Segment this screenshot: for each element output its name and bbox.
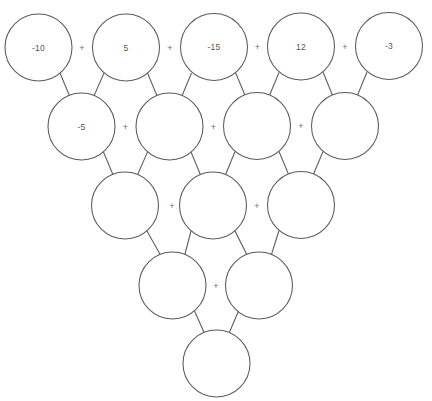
pyramid-canvas: -105-1512-3-5 ++++++++++ xyxy=(0,0,432,401)
connector-line xyxy=(323,72,333,97)
connector-line xyxy=(147,231,161,256)
connector-line xyxy=(60,73,70,97)
connector-line xyxy=(269,73,279,97)
connector-line xyxy=(271,231,279,257)
cell-value-r0c2: -15 xyxy=(207,42,220,52)
plus-operator-r0o2: + xyxy=(255,42,260,52)
plus-operator-r0o0: + xyxy=(79,43,84,53)
connector-line xyxy=(357,72,367,97)
plus-operator-r0o1: + xyxy=(167,43,172,53)
connector-line xyxy=(235,231,248,256)
pyramid-circles-group: -105-1512-3-5 xyxy=(5,13,423,398)
pyramid-cell-r1c3[interactable] xyxy=(312,93,379,160)
plus-operator-r2o0: + xyxy=(169,201,174,211)
plus-operator-r1o0: + xyxy=(123,122,128,132)
connector-line xyxy=(191,152,201,176)
pyramid-cell-r1c2[interactable] xyxy=(224,93,291,160)
pyramid-cell-r3c1[interactable] xyxy=(226,252,293,319)
cell-value-r0c3: 12 xyxy=(296,42,306,52)
plus-operator-r2o1: + xyxy=(254,201,259,211)
pyramid-cell-r2c1[interactable] xyxy=(180,172,247,239)
plus-operator-r0o3: + xyxy=(342,42,347,52)
connector-line xyxy=(104,152,114,176)
plus-operator-r1o2: + xyxy=(298,121,303,131)
addition-pyramid-puzzle: -105-1512-3-5 ++++++++++ xyxy=(0,0,432,401)
connector-line xyxy=(182,73,192,97)
cell-value-r0c4: -3 xyxy=(385,41,393,51)
connector-line xyxy=(236,73,246,97)
connector-line xyxy=(225,152,235,177)
pyramid-cell-r1c1[interactable] xyxy=(136,93,203,160)
connector-line xyxy=(195,311,206,335)
pyramid-cell-r4c0[interactable] xyxy=(183,330,250,397)
connector-line xyxy=(185,231,192,256)
cell-value-r1c0: -5 xyxy=(77,122,85,132)
connector-line xyxy=(137,152,148,176)
plus-operator-r1o1: + xyxy=(211,122,216,132)
cell-value-r0c1: 5 xyxy=(123,43,128,53)
pyramid-cell-r2c0[interactable] xyxy=(92,172,159,239)
connector-line xyxy=(94,73,105,97)
connector-line xyxy=(313,152,323,176)
cell-value-r0c0: -10 xyxy=(32,43,45,53)
pyramid-cell-r3c0[interactable] xyxy=(139,252,206,319)
connector-line xyxy=(229,311,239,335)
connector-line xyxy=(148,73,158,97)
pyramid-cell-r2c2[interactable] xyxy=(268,172,335,239)
connector-line xyxy=(279,152,289,176)
plus-operator-r3o0: + xyxy=(213,281,218,291)
